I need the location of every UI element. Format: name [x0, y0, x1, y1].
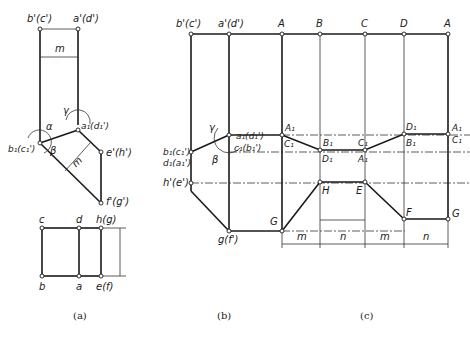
- label-c: c: [39, 214, 45, 225]
- caption-a: (a): [73, 310, 87, 321]
- label-a-prime: a'(d'): [218, 18, 244, 29]
- point: [363, 180, 367, 184]
- label-b: b: [39, 281, 45, 292]
- point: [189, 32, 193, 36]
- label-f-prime: f'(g'): [106, 196, 129, 207]
- point: [318, 148, 322, 152]
- point: [38, 27, 42, 31]
- view-c: A B C D A A₁ C₁ B₁ D₁ C₁ A₁ D₁ B₁ A₁ C₁ …: [270, 18, 462, 321]
- point: [318, 180, 322, 184]
- label-beta: β: [211, 154, 219, 165]
- dim-n-1: n: [340, 231, 346, 242]
- point: [76, 27, 80, 31]
- label-G-end: G: [452, 208, 460, 219]
- label-A1-end: A₁: [451, 123, 462, 133]
- label-A1-mid: A₁: [357, 154, 368, 164]
- label-a-prime: a'(d'): [73, 13, 99, 24]
- point: [99, 226, 103, 230]
- caption-c: (c): [360, 310, 374, 321]
- point: [363, 32, 367, 36]
- label-H: H: [322, 185, 330, 196]
- label-B1-right: B₁: [406, 138, 416, 148]
- label-d1: d₁(a₁'): [163, 158, 191, 168]
- dim-n-2: n: [423, 231, 429, 242]
- point: [280, 133, 284, 137]
- unfolding-diagram: b'(c') a'(d') m α β γ a₁(d₁') b₁(c₁') e'…: [0, 0, 470, 338]
- point: [446, 217, 450, 221]
- label-C1-end: C₁: [452, 135, 462, 145]
- point: [363, 148, 367, 152]
- label-b1: b₁(c₁'): [163, 147, 190, 157]
- label-hg: h(g): [96, 214, 117, 225]
- edge: [191, 191, 229, 231]
- caption-b: (b): [217, 310, 231, 321]
- label-g: g(f'): [218, 234, 238, 245]
- label-a1: a₁(d₁'): [81, 121, 109, 131]
- point: [280, 229, 284, 233]
- point: [40, 226, 44, 230]
- point: [99, 274, 103, 278]
- label-D1-right: D₁: [406, 122, 417, 132]
- label-D1: D₁: [322, 154, 333, 164]
- label-C: C: [361, 18, 368, 29]
- label-b-prime: b'(c'): [27, 13, 52, 24]
- point: [318, 32, 322, 36]
- dim-m-2: m: [380, 231, 390, 242]
- point: [446, 32, 450, 36]
- label-alpha: α: [46, 121, 53, 132]
- label-B: B: [316, 18, 323, 29]
- label-gamma: γ: [209, 122, 216, 133]
- label-a: a: [76, 281, 82, 292]
- label-beta: β: [49, 145, 57, 156]
- point: [77, 274, 81, 278]
- dim-m-1: m: [297, 231, 307, 242]
- point: [77, 226, 81, 230]
- point: [227, 229, 231, 233]
- edge: [78, 130, 101, 152]
- label-G: G: [270, 216, 278, 227]
- label-ef: e(f): [96, 281, 113, 292]
- point: [402, 132, 406, 136]
- point: [99, 150, 103, 154]
- label-C1: C₁: [284, 139, 294, 149]
- label-C1-mid: C₁: [358, 138, 368, 148]
- label-b-prime: b'(c'): [176, 18, 201, 29]
- label-E: E: [356, 185, 363, 196]
- label-b1: b₁(c₁'): [8, 144, 35, 154]
- label-c1: c₁(b₁'): [234, 143, 261, 153]
- point: [40, 274, 44, 278]
- label-A-end: A: [443, 18, 451, 29]
- label-D: D: [400, 18, 408, 29]
- edge: [191, 135, 229, 152]
- label-m: m: [55, 43, 65, 54]
- label-e-prime: e'(h'): [106, 147, 132, 158]
- label-d: d: [76, 214, 83, 225]
- view-b: b'(c') a'(d') γ β a₁(d₁') c₁(b₁') b₁(c₁'…: [163, 18, 470, 321]
- point: [227, 32, 231, 36]
- label-m-diag: m: [70, 154, 85, 169]
- view-a: b'(c') a'(d') m α β γ a₁(d₁') b₁(c₁') e'…: [8, 13, 132, 321]
- label-A1: A₁: [284, 123, 295, 133]
- point: [227, 133, 231, 137]
- label-B1: B₁: [323, 138, 333, 148]
- label-F: F: [406, 207, 412, 218]
- point: [76, 128, 80, 132]
- point: [446, 132, 450, 136]
- point: [38, 141, 42, 145]
- point: [280, 32, 284, 36]
- point: [402, 32, 406, 36]
- point: [189, 181, 193, 185]
- point: [99, 201, 103, 205]
- label-A: A: [277, 18, 285, 29]
- label-a1: a₁(d₁'): [236, 131, 264, 141]
- label-h-prime: h'(e'): [163, 177, 189, 188]
- top-view-outline: [42, 228, 101, 276]
